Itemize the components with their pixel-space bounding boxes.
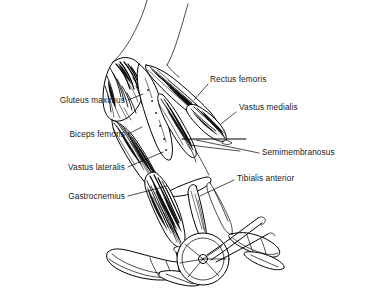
label-biceps-femoris: Biceps femoris (69, 129, 125, 139)
label-vastus-medialis: Vastus medialis (239, 102, 298, 112)
label-tibialis-anterior: Tibialis anterior (237, 173, 294, 183)
label-gastrocnemius: Gastrocnemius (68, 191, 125, 201)
anatomy-figure: Gluteus maximus Biceps femoris Vastus la… (0, 0, 373, 290)
label-rectus-femoris: Rectus femoris (210, 74, 266, 84)
label-vastus-lateralis: Vastus lateralis (68, 162, 125, 172)
label-semimembranosus: Semimembranosus (262, 147, 335, 157)
label-gluteus-maximus: Gluteus maximus (60, 95, 125, 105)
anatomy-illustration: Gluteus maximus Biceps femoris Vastus la… (0, 0, 373, 290)
